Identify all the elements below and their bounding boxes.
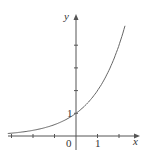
x-tick-label-1: 1 [95,137,101,149]
x-axis-label: x [132,135,138,147]
y-tick-label-1: 1 [67,107,73,119]
y-axis-arrow-icon [74,14,79,20]
axes [8,14,140,150]
exponential-graph: y x 0 1 1 [0,0,152,162]
y-axis-label: y [63,10,69,22]
origin-label: 0 [66,137,72,149]
